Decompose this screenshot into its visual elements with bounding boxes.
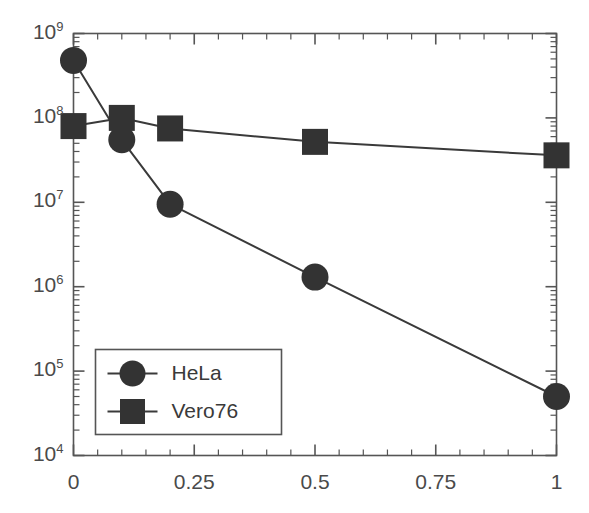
y-tick-mantissa: 10: [33, 20, 56, 43]
data-point-hela[interactable]: [302, 264, 329, 291]
legend-marker-square: [120, 399, 145, 424]
y-tick-exponent: 6: [56, 272, 63, 287]
y-tick-mantissa: 10: [33, 188, 56, 211]
data-point-vero76[interactable]: [544, 142, 570, 168]
y-tick-exponent: 8: [56, 103, 63, 118]
legend-label-hela: HeLa: [172, 361, 222, 385]
y-axis-tick-label: 105: [33, 357, 64, 381]
legend-label-vero76: Vero76: [172, 399, 239, 423]
data-point-vero76[interactable]: [157, 115, 183, 141]
y-axis-tick-label: 109: [33, 20, 64, 44]
y-tick-exponent: 9: [56, 19, 63, 34]
data-point-vero76[interactable]: [61, 113, 87, 139]
y-axis-tick-label: 107: [33, 188, 64, 212]
y-tick-mantissa: 10: [33, 442, 56, 465]
x-axis-tick-label: 1: [551, 470, 563, 494]
data-point-hela[interactable]: [60, 47, 87, 74]
series-line-hela: [74, 60, 557, 396]
y-tick-mantissa: 10: [33, 104, 56, 127]
x-axis-tick-label: 0.25: [174, 470, 215, 494]
y-axis-tick-label: 108: [33, 104, 64, 128]
y-axis-tick-label: 106: [33, 273, 64, 297]
y-tick-mantissa: 10: [33, 273, 56, 296]
y-tick-exponent: 7: [56, 187, 63, 202]
legend-marker-circle: [120, 361, 146, 387]
x-axis-tick-label: 0.5: [300, 470, 329, 494]
x-axis-tick-label: 0: [68, 470, 80, 494]
y-tick-mantissa: 10: [33, 357, 56, 380]
x-axis-tick-label: 0.75: [415, 470, 456, 494]
data-point-vero76[interactable]: [302, 129, 328, 155]
y-axis-tick-label: 104: [33, 442, 64, 466]
chart-figure: 10910810710610510400.250.50.751HeLaVero7…: [0, 0, 589, 513]
data-point-hela[interactable]: [157, 191, 184, 218]
data-point-hela[interactable]: [543, 383, 570, 410]
data-point-vero76[interactable]: [109, 105, 135, 131]
y-tick-exponent: 4: [56, 441, 63, 456]
y-tick-exponent: 5: [56, 356, 63, 371]
plot-canvas: [0, 0, 589, 513]
